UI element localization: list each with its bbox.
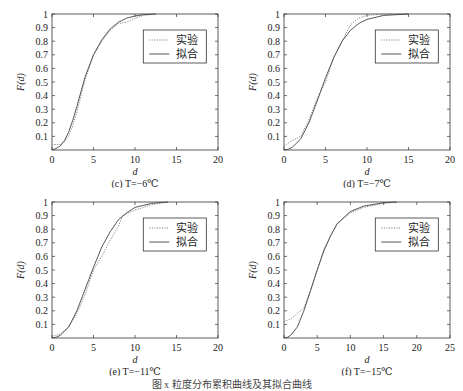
y-tick-label: 0.2 (268, 305, 281, 316)
legend-label-experimental: 实验 (176, 33, 198, 46)
y-tick-label: 0.3 (268, 292, 281, 303)
x-tick-label: 0 (282, 154, 287, 165)
legend-label-fitted: 拟合 (408, 47, 430, 60)
x-tick-label: 20 (445, 154, 455, 165)
x-tick-label: 15 (172, 154, 182, 165)
x-axis-label: d (365, 166, 371, 177)
y-tick-label: 0.8 (268, 36, 281, 47)
y-tick-label: 0.5 (268, 77, 281, 88)
x-tick-label: 20 (412, 342, 422, 353)
y-tick-label: 0.7 (36, 49, 49, 60)
x-tick-label: 5 (323, 154, 328, 165)
x-tick-label: 5 (315, 342, 320, 353)
legend-label-fitted: 拟合 (176, 235, 198, 248)
legend-label-experimental: 实验 (408, 221, 430, 234)
y-tick-label: 0.1 (268, 319, 281, 330)
y-tick-label: 0.5 (36, 77, 49, 88)
y-axis-label: F(d) (15, 260, 27, 279)
chart-svg: 0.10.20.30.40.50.60.70.80.910510152025dF… (232, 188, 463, 376)
y-tick-label: 0.7 (268, 237, 281, 248)
y-tick-label: 0.9 (268, 22, 281, 33)
y-tick-label: 0.8 (268, 224, 281, 235)
x-axis-label: d (365, 354, 371, 365)
y-tick-label: 0.7 (36, 237, 49, 248)
y-tick-label: 0.2 (268, 117, 281, 128)
subplot-caption: (d) T=−7℃ (343, 178, 391, 188)
y-tick-label: 0.6 (36, 251, 49, 262)
legend-label-fitted: 拟合 (408, 235, 430, 248)
x-axis-label: d (133, 166, 139, 177)
chart-panel-f: 0.10.20.30.40.50.60.70.80.910510152025dF… (232, 188, 463, 376)
y-tick-label: 0.4 (36, 90, 49, 101)
y-tick-label: 0.9 (36, 210, 49, 221)
y-axis-label: F(d) (247, 260, 259, 279)
x-tick-label: 15 (379, 342, 389, 353)
x-tick-label: 10 (130, 154, 140, 165)
legend: 实验拟合 (375, 30, 438, 63)
legend: 实验拟合 (375, 218, 438, 251)
y-tick-label: 1 (43, 197, 48, 208)
y-tick-label: 0.4 (36, 278, 49, 289)
subplot-caption: (e) T=−11℃ (109, 366, 161, 376)
subplot-caption: (c) T=−6℃ (112, 178, 159, 188)
legend: 实验拟合 (143, 218, 206, 251)
y-tick-label: 0.4 (268, 90, 281, 101)
y-tick-label: 0.1 (36, 131, 49, 142)
y-tick-label: 0.5 (268, 265, 281, 276)
y-tick-label: 0.1 (36, 319, 49, 330)
x-tick-label: 15 (404, 154, 414, 165)
y-tick-label: 0.1 (268, 131, 281, 142)
y-tick-label: 0.9 (36, 22, 49, 33)
chart-panel-c: 0.10.20.30.40.50.60.70.80.9105101520dF(d… (0, 0, 231, 188)
y-tick-label: 0.9 (268, 210, 281, 221)
y-tick-label: 0.3 (36, 292, 49, 303)
x-tick-label: 5 (91, 342, 96, 353)
x-tick-label: 25 (445, 342, 455, 353)
y-tick-label: 0.2 (36, 305, 49, 316)
x-tick-label: 10 (345, 342, 355, 353)
y-tick-label: 0.3 (36, 104, 49, 115)
legend-label-fitted: 拟合 (176, 47, 198, 60)
x-tick-label: 5 (91, 154, 96, 165)
y-tick-label: 1 (275, 197, 280, 208)
y-tick-label: 0.6 (268, 63, 281, 74)
y-tick-label: 0.3 (268, 104, 281, 115)
chart-svg: 0.10.20.30.40.50.60.70.80.9105101520dF(d… (0, 0, 231, 188)
y-axis-label: F(d) (247, 72, 259, 91)
y-tick-label: 0.8 (36, 224, 49, 235)
fitted-curve (52, 14, 156, 150)
legend: 实验拟合 (143, 30, 206, 63)
y-axis-label: F(d) (15, 72, 27, 91)
x-tick-label: 0 (50, 154, 55, 165)
chart-svg: 0.10.20.30.40.50.60.70.80.9105101520dF(d… (0, 188, 231, 376)
y-tick-label: 0.8 (36, 36, 49, 47)
y-tick-label: 1 (275, 9, 280, 20)
x-axis-label: d (133, 354, 139, 365)
x-tick-label: 10 (362, 154, 372, 165)
y-tick-label: 0.4 (268, 278, 281, 289)
y-tick-label: 0.2 (36, 117, 49, 128)
x-tick-label: 0 (282, 342, 287, 353)
legend-label-experimental: 实验 (176, 221, 198, 234)
experimental-curve (52, 14, 156, 145)
x-tick-label: 20 (213, 342, 223, 353)
x-tick-label: 15 (172, 342, 182, 353)
x-tick-label: 20 (213, 154, 223, 165)
y-tick-label: 0.6 (268, 251, 281, 262)
figure-caption: 图 x 粒度分布累积曲线及其拟合曲线 (0, 376, 463, 391)
subplot-caption: (f) T=−15℃ (342, 366, 393, 376)
y-tick-label: 0.7 (268, 49, 281, 60)
chart-svg: 0.10.20.30.40.50.60.70.80.9105101520dF(d… (232, 0, 463, 188)
x-tick-label: 0 (50, 342, 55, 353)
legend-label-experimental: 实验 (408, 33, 430, 46)
x-tick-label: 10 (130, 342, 140, 353)
y-tick-label: 0.5 (36, 265, 49, 276)
y-tick-label: 0.6 (36, 63, 49, 74)
y-tick-label: 1 (43, 9, 48, 20)
chart-panel-e: 0.10.20.30.40.50.60.70.80.9105101520dF(d… (0, 188, 231, 376)
chart-panel-d: 0.10.20.30.40.50.60.70.80.9105101520dF(d… (232, 0, 463, 188)
